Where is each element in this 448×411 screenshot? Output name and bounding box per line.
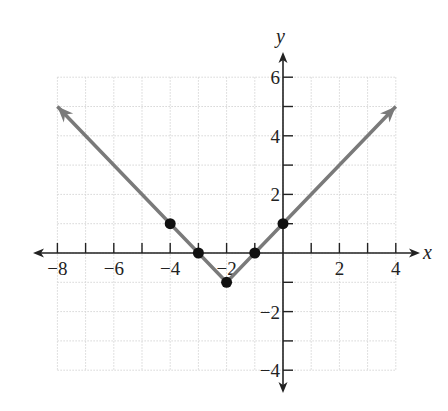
data-point [165,218,176,229]
data-point [249,248,260,259]
data-point [221,277,232,288]
grid [57,77,395,370]
y-tick-label: 6 [271,67,281,88]
data-point [278,218,289,229]
x-tick-label: 4 [391,258,401,279]
y-tick-label: −2 [260,302,280,323]
x-tick-label: 2 [335,258,345,279]
absolute-value-graph: −8−6−4−224 642−2−4 x y [0,0,448,411]
data-point [193,248,204,259]
y-axis-label: y [274,25,285,48]
x-tick-label: −4 [160,258,181,279]
x-axis-label: x [422,241,432,263]
x-tick-label: −8 [47,258,67,279]
y-tick-label: 4 [271,126,281,147]
x-tick-labels: −8−6−4−224 [47,258,401,279]
y-tick-label: 2 [271,184,281,205]
y-tick-label: −4 [260,360,281,381]
x-tick-label: −6 [104,258,124,279]
